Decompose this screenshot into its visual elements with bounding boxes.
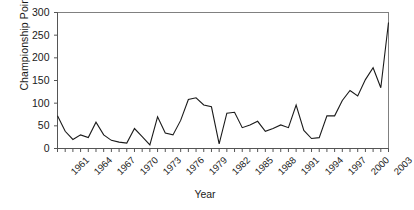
axis-ticks bbox=[54, 13, 389, 153]
data-line-series bbox=[58, 22, 389, 144]
series-line-championship-points bbox=[58, 22, 389, 144]
